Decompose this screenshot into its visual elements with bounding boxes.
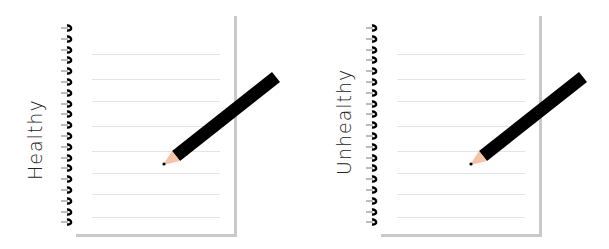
panel-healthy: Healthy	[0, 0, 304, 249]
panel-unhealthy: Unhealthy	[305, 0, 609, 249]
pencil-icon	[0, 0, 304, 249]
pencil-icon	[305, 0, 609, 249]
